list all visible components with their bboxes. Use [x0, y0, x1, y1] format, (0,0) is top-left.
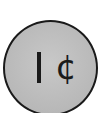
cent-symbol: ¢	[53, 47, 79, 87]
digit-one	[37, 52, 41, 83]
penny-coin	[3, 20, 98, 113]
